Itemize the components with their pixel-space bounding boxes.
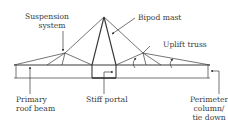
leader-perimeter <box>211 71 219 94</box>
leader-bipod <box>112 18 135 34</box>
leader-uplift <box>143 46 150 53</box>
label-primary-roof-beam: Primary roof beam <box>16 95 55 113</box>
label-uplift-truss: Uplift truss <box>163 40 207 49</box>
label-line: column/ <box>188 104 228 113</box>
label-line: tie down <box>188 113 228 122</box>
label-line: system <box>24 21 70 30</box>
label-stiff-portal: Stiff portal <box>86 95 128 104</box>
label-line: Suspension <box>24 12 70 21</box>
cable-right-main <box>104 17 143 53</box>
bipod-mast-left <box>92 17 104 65</box>
leader-stiff-portal <box>104 72 113 94</box>
label-line: roof beam <box>16 104 55 113</box>
label-suspension-system: Suspension system <box>24 12 70 30</box>
label-line: Perimeter <box>188 95 228 104</box>
bipod-mast-right <box>104 17 116 65</box>
label-line: Primary <box>16 95 55 104</box>
label-bipod-mast: Bipod mast <box>138 13 181 22</box>
cable-left-main <box>65 17 104 53</box>
label-perimeter-column: Perimeter column/ tie down <box>188 95 228 122</box>
